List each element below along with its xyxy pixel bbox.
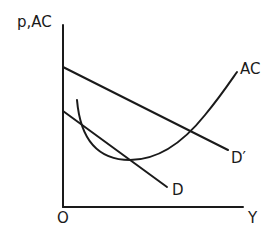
x-axis-label: Y: [247, 209, 258, 227]
d-prime-curve-label: D′: [231, 149, 247, 167]
y-axis-label: p,AC: [17, 13, 52, 31]
demand-curve-d: [63, 111, 167, 187]
d-curve-label: D: [172, 181, 184, 199]
diagram-canvas: p,AC AC D′ D O Y: [0, 0, 275, 233]
ac-curve-label: AC: [240, 60, 260, 78]
origin-label: O: [57, 209, 69, 227]
